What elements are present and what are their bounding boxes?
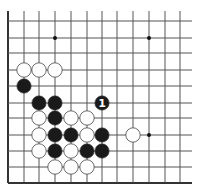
black-stone-icon bbox=[95, 144, 109, 158]
white-stone-icon bbox=[80, 111, 94, 125]
black-stone-icon bbox=[48, 111, 62, 125]
black-stone-icon bbox=[64, 128, 78, 142]
star-point-icon bbox=[147, 133, 151, 137]
white-stone-icon bbox=[32, 111, 46, 125]
white-stone-icon bbox=[64, 144, 78, 158]
white-stone-icon bbox=[32, 63, 46, 77]
star-point-icon bbox=[147, 36, 151, 40]
white-stone-icon bbox=[126, 128, 140, 142]
white-stone-icon bbox=[32, 144, 46, 158]
star-point-icon bbox=[53, 36, 57, 40]
white-stone-icon bbox=[32, 128, 46, 142]
move-number-label: 1 bbox=[98, 97, 106, 110]
white-stone-icon bbox=[64, 111, 78, 125]
black-stone-icon bbox=[48, 144, 62, 158]
black-stone-icon bbox=[48, 128, 62, 142]
black-stone-icon bbox=[32, 96, 46, 110]
white-stone-icon bbox=[80, 160, 94, 174]
go-board: 1 bbox=[0, 0, 197, 189]
white-stone-icon bbox=[80, 128, 94, 142]
black-stone-icon bbox=[17, 79, 31, 93]
white-stone-icon bbox=[64, 160, 78, 174]
black-stone-icon bbox=[48, 96, 62, 110]
white-stone-icon bbox=[48, 63, 62, 77]
black-stone-icon bbox=[80, 144, 94, 158]
white-stone-icon bbox=[48, 160, 62, 174]
white-stone-icon bbox=[17, 63, 31, 77]
black-stone-icon bbox=[95, 128, 109, 142]
